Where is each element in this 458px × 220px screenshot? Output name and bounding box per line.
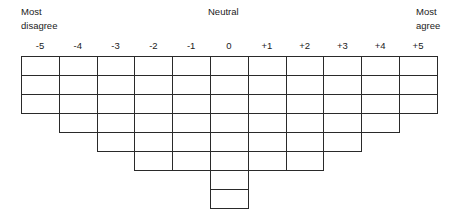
scale-label: -1 — [172, 40, 210, 51]
grid-cell[interactable] — [210, 132, 249, 152]
grid-cell[interactable] — [97, 94, 136, 114]
grid-cell[interactable] — [248, 56, 287, 76]
grid-cell[interactable] — [59, 56, 98, 76]
grid-cell[interactable] — [286, 151, 325, 171]
grid-cell[interactable] — [59, 94, 98, 114]
grid-cell[interactable] — [210, 170, 249, 190]
grid-cell[interactable] — [323, 113, 362, 133]
most-agree-line1: Most — [416, 6, 440, 18]
scale-label: -2 — [134, 40, 172, 51]
most-agree-label: Most agree — [416, 6, 440, 32]
grid-cell[interactable] — [286, 75, 325, 95]
grid-cell[interactable] — [172, 94, 211, 114]
grid-cell[interactable] — [399, 56, 438, 76]
grid-cell[interactable] — [323, 56, 362, 76]
grid-cell[interactable] — [248, 113, 287, 133]
grid-cell[interactable] — [21, 75, 60, 95]
grid-cell[interactable] — [210, 189, 249, 209]
scale-label: -5 — [21, 40, 59, 51]
scale-label: +4 — [361, 40, 399, 51]
grid-cell[interactable] — [248, 94, 287, 114]
grid-cell[interactable] — [399, 75, 438, 95]
grid-cell[interactable] — [21, 56, 60, 76]
grid-cell[interactable] — [210, 56, 249, 76]
grid-cell[interactable] — [248, 132, 287, 152]
grid-cell[interactable] — [248, 151, 287, 171]
grid-cell[interactable] — [361, 56, 400, 76]
scale-label: +3 — [323, 40, 361, 51]
grid-cell[interactable] — [286, 94, 325, 114]
grid-cell[interactable] — [286, 113, 325, 133]
grid-cell[interactable] — [97, 56, 136, 76]
grid-cell[interactable] — [172, 113, 211, 133]
grid-cell[interactable] — [134, 151, 173, 171]
grid-cell[interactable] — [134, 113, 173, 133]
grid-cell[interactable] — [21, 94, 60, 114]
most-disagree-label: Most disagree — [21, 6, 57, 32]
scale-label: -4 — [59, 40, 97, 51]
grid-cell[interactable] — [323, 94, 362, 114]
grid-cell[interactable] — [361, 75, 400, 95]
grid-cell[interactable] — [134, 75, 173, 95]
grid-cell[interactable] — [361, 113, 400, 133]
grid-cell[interactable] — [172, 151, 211, 171]
grid-cell[interactable] — [210, 94, 249, 114]
grid-cell[interactable] — [248, 75, 287, 95]
grid-cell[interactable] — [134, 94, 173, 114]
neutral-label: Neutral — [208, 6, 239, 18]
grid-cell[interactable] — [134, 132, 173, 152]
most-disagree-line1: Most — [21, 6, 57, 18]
grid-cell[interactable] — [97, 132, 136, 152]
grid-cell[interactable] — [286, 56, 325, 76]
grid-cell[interactable] — [323, 132, 362, 152]
scale-label: +5 — [399, 40, 437, 51]
grid-cell[interactable] — [172, 56, 211, 76]
most-agree-line2: agree — [416, 20, 440, 32]
grid-cell[interactable] — [210, 75, 249, 95]
grid-cell[interactable] — [399, 94, 438, 114]
scale-label: +2 — [286, 40, 324, 51]
scale-label: -3 — [97, 40, 135, 51]
grid-cell[interactable] — [172, 132, 211, 152]
grid-cell[interactable] — [286, 132, 325, 152]
grid-cell[interactable] — [97, 75, 136, 95]
grid-cell[interactable] — [172, 75, 211, 95]
grid-cell[interactable] — [97, 113, 136, 133]
grid-cell[interactable] — [210, 113, 249, 133]
grid-cell[interactable] — [59, 75, 98, 95]
grid-cell[interactable] — [210, 151, 249, 171]
most-disagree-line2: disagree — [21, 20, 57, 32]
grid-cell[interactable] — [134, 56, 173, 76]
scale-label: 0 — [210, 40, 248, 51]
grid-cell[interactable] — [361, 94, 400, 114]
grid-cell[interactable] — [59, 113, 98, 133]
scale-label: +1 — [248, 40, 286, 51]
grid-cell[interactable] — [323, 75, 362, 95]
